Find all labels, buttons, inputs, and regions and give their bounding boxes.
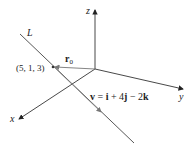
z-axis-label: z <box>85 5 90 16</box>
position-vector-r0 <box>55 67 95 69</box>
direction-vector-v <box>54 67 101 112</box>
point-marker <box>52 66 55 69</box>
y-axis <box>95 69 183 89</box>
y-axis-label: y <box>178 91 184 102</box>
r0-label: r0 <box>65 53 73 66</box>
line-label-L: L <box>26 27 33 38</box>
v-equation-label: v = i + 4j − 2k <box>90 91 149 102</box>
line-in-space-diagram: z y x L (5, 1, 3) r0 v = i + 4j − 2k <box>0 0 194 156</box>
x-axis-label: x <box>9 113 15 124</box>
point-label: (5, 1, 3) <box>16 63 45 73</box>
x-axis <box>19 69 95 119</box>
